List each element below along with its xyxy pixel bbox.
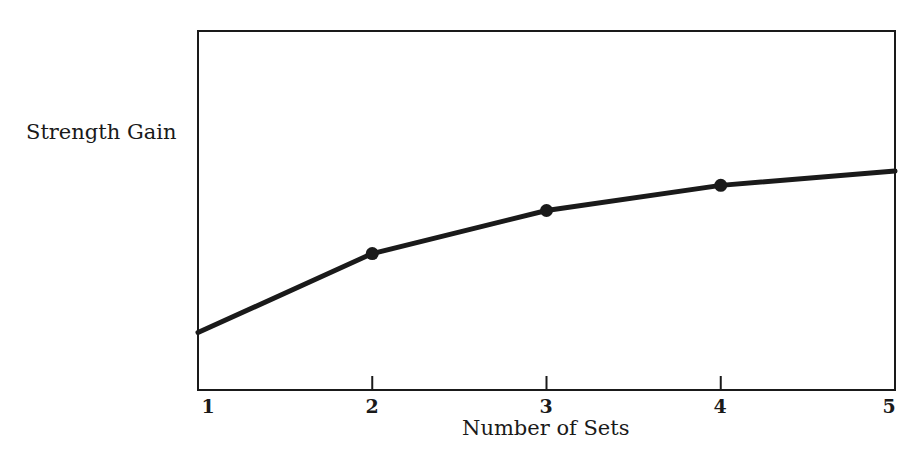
chart-plot-area <box>0 0 920 459</box>
x-tick-1: 1 <box>198 395 218 417</box>
x-axis-label: Number of Sets <box>462 416 630 440</box>
x-axis-ticks <box>372 376 721 390</box>
data-point-marker <box>540 204 553 217</box>
data-point-marker <box>714 179 727 192</box>
data-line <box>198 171 895 333</box>
x-tick-4: 4 <box>710 395 730 417</box>
data-point-marker <box>366 247 379 260</box>
x-tick-5: 5 <box>879 395 899 417</box>
x-tick-2: 2 <box>362 395 382 417</box>
x-tick-3: 3 <box>536 395 556 417</box>
